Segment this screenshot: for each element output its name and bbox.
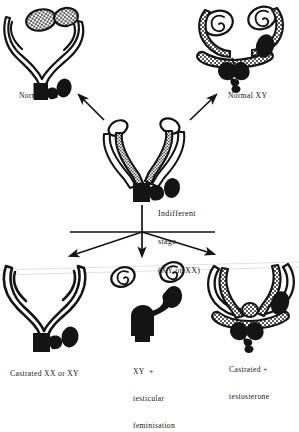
label-castrated-line-1: Castrated XX or XY bbox=[10, 370, 79, 379]
label-xy-testicular-feminisation: XY + testicular feminisation bbox=[133, 350, 175, 432]
label-indifferent-line-1: Indifferent bbox=[158, 209, 200, 218]
label-normal-xy: Normal XY bbox=[228, 92, 267, 101]
ovary-left-icon bbox=[24, 7, 58, 34]
organ-castrated-plus-testosterone bbox=[208, 264, 294, 353]
organ-castrated-xx-or-xy bbox=[4, 266, 85, 352]
label-tf-line-1: XY + bbox=[133, 368, 175, 377]
label-normal-xx: Normal XX bbox=[19, 92, 58, 101]
ct-central-node bbox=[242, 303, 258, 317]
label-ct-line-2: testosterone bbox=[229, 393, 269, 402]
organ-normal-xx bbox=[4, 6, 83, 100]
testis-right-icon bbox=[245, 3, 279, 33]
label-indifferent-stage: Indifferent stage (XY or XX) bbox=[158, 190, 200, 294]
duct-pair-right bbox=[145, 131, 184, 187]
label-castrated-plus-testosterone: Castrated + testosterone bbox=[229, 348, 269, 420]
label-tf-line-3: feminisation bbox=[133, 422, 175, 431]
label-indifferent-line-2: stage bbox=[158, 237, 200, 246]
label-ct-line-1: Castrated + bbox=[229, 366, 269, 375]
tf-testis-left-icon bbox=[108, 264, 137, 291]
label-tf-line-2: testicular bbox=[133, 395, 175, 404]
arrow-to-normal-xx bbox=[79, 95, 104, 120]
label-castrated-xx-or-xy: Castrated XX or XY bbox=[10, 352, 79, 397]
arrow-to-normal-xy bbox=[190, 95, 216, 120]
duct-pair-left bbox=[104, 133, 143, 188]
scan-artifact-lines bbox=[0, 262, 299, 275]
label-indifferent-line-3: (XY or XX) bbox=[158, 266, 200, 275]
organ-normal-xy bbox=[197, 3, 283, 93]
arrow-to-castrated-xx-or-xy bbox=[70, 232, 142, 256]
